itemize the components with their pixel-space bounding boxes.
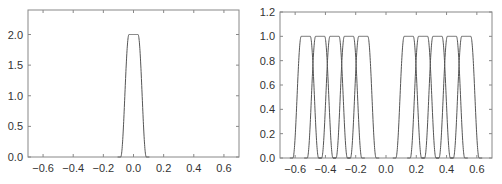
y-tick-label: 0.5	[8, 120, 23, 132]
plot-frame	[28, 10, 239, 157]
pulse-curve	[407, 36, 439, 158]
x-tick-label: 0.0	[126, 162, 141, 174]
x-tick-label: 0.0	[378, 163, 393, 175]
y-tick-label: 2.0	[8, 29, 23, 41]
right-panel-plot: −0.6−0.4−0.20.00.20.40.60.00.20.40.60.81…	[260, 6, 492, 175]
y-tick-label: 1.0	[260, 30, 275, 42]
x-tick-label: −0.2	[92, 162, 114, 174]
pulse-curve	[347, 36, 379, 158]
left-panel-plot: −0.6−0.4−0.20.00.20.40.60.00.51.01.52.0	[8, 10, 239, 174]
y-tick-label: 1.0	[8, 90, 23, 102]
pulse-curve	[422, 36, 454, 158]
y-tick-label: 0.4	[260, 103, 275, 115]
y-tick-label: 0.0	[8, 151, 23, 163]
y-tick-label: 1.5	[8, 59, 23, 71]
x-tick-label: 0.2	[156, 162, 171, 174]
pulse-curve	[436, 36, 468, 158]
y-tick-label: 0.8	[260, 55, 275, 67]
chart-figure: −0.6−0.4−0.20.00.20.40.60.00.51.01.52.0 …	[0, 0, 502, 184]
x-tick-label: 0.4	[439, 163, 454, 175]
x-tick-label: −0.6	[32, 162, 54, 174]
pulse-curve	[304, 36, 336, 158]
y-tick-label: 1.2	[260, 6, 275, 18]
y-tick-label: 0.6	[260, 79, 275, 91]
x-tick-label: −0.4	[62, 162, 84, 174]
x-tick-label: 0.6	[216, 162, 231, 174]
y-tick-label: 0.0	[260, 152, 275, 164]
pulse-curve	[450, 36, 482, 158]
x-tick-label: 0.4	[186, 162, 201, 174]
y-tick-label: 0.2	[260, 128, 275, 140]
pulse-curve	[393, 36, 425, 158]
x-tick-label: −0.2	[345, 163, 367, 175]
x-tick-label: −0.6	[284, 163, 306, 175]
x-tick-label: 0.6	[469, 163, 484, 175]
pulse-curve	[333, 36, 365, 158]
pulse-curve	[319, 36, 351, 158]
pulse-curve	[290, 36, 322, 158]
x-tick-label: 0.2	[409, 163, 424, 175]
pulse-curve	[118, 35, 150, 158]
x-tick-label: −0.4	[315, 163, 337, 175]
